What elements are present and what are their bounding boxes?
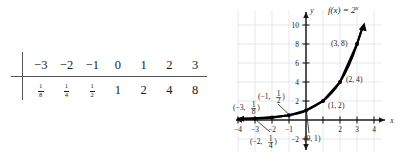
point-label-two: (2, 4) (346, 75, 363, 84)
fraction-denominator: 4 (269, 141, 273, 150)
point-label-close: ) (282, 92, 285, 101)
fraction-numerator: 1 (38, 83, 44, 90)
x-tick-label: −1 (285, 125, 293, 134)
x-tick-label: 3 (355, 125, 359, 134)
table-cell-x-1: −2 (54, 58, 80, 73)
y-tick-label: 8 (295, 40, 299, 49)
data-point (338, 80, 342, 84)
y-tick-label: 4 (295, 78, 299, 87)
data-point (287, 113, 291, 117)
y-tick-label: −2 (291, 135, 299, 144)
data-point (355, 42, 359, 46)
table-cell-y-3: 1 (105, 83, 131, 98)
y-axis-label: y (309, 6, 314, 15)
svg-text:(−3,: (−3, (233, 103, 246, 112)
fraction: 1 2 (90, 83, 96, 99)
point-label-zero: (0, 1) (304, 134, 321, 143)
function-label-base: f(x) = 2 (328, 5, 356, 15)
point-label-one: (1, 2) (328, 101, 345, 110)
fraction: 1 4 (64, 83, 70, 99)
point-label-open: (−3, (233, 103, 246, 112)
x-tick-label: 4 (372, 125, 376, 134)
x-tick-label: −3 (251, 125, 259, 134)
table-cell-y-6: 8 (182, 83, 208, 98)
point-label-neg3: (−3, 1 8 ) (233, 100, 260, 116)
fraction-numerator: 1 (90, 83, 96, 90)
fraction-denominator: 8 (38, 92, 44, 99)
point-label-close: ) (257, 103, 260, 112)
table-cell-x-4: 1 (131, 58, 157, 73)
point-label-open: (−2, (250, 137, 263, 146)
fraction: 1 8 (38, 83, 44, 99)
svg-text:f(x) = 2x: f(x) = 2x (328, 4, 359, 15)
data-point (304, 109, 308, 113)
point-label-open: (−1, (258, 92, 271, 101)
table-cell-x-3: 0 (105, 58, 131, 73)
y-tick-label: 10 (292, 21, 300, 30)
table-row: 1 8 1 4 1 2 1 2 4 8 (28, 80, 208, 100)
function-label: f(x) = 2x (328, 4, 359, 15)
point-label-neg1: (−1, 1 2 ) (258, 89, 285, 105)
fraction-denominator: 8 (252, 107, 256, 116)
x-tick-label: −4 (234, 125, 242, 134)
table-cell-x-6: 3 (182, 58, 208, 73)
table-cell-x-2: −1 (79, 58, 105, 73)
fraction-denominator: 2 (277, 96, 281, 105)
y-tick-label: 2 (295, 97, 299, 106)
function-label-exponent: x (355, 4, 359, 11)
x-tick-label: 2 (338, 125, 342, 134)
data-point (321, 99, 325, 103)
table-cell-y-0: 1 8 (28, 82, 54, 98)
x-tick-label: −2 (268, 125, 276, 134)
table-cell-x-0: −3 (28, 58, 54, 73)
table-cell-y-5: 4 (157, 83, 183, 98)
point-label-three: (3, 8) (331, 39, 348, 48)
y-tick-label: 6 (295, 59, 299, 68)
svg-text:(−1,: (−1, (258, 92, 271, 101)
table-row: −3 −2 −1 0 1 2 3 (28, 56, 208, 74)
table-cell-y-1: 1 4 (54, 82, 80, 98)
point-label-neg2: (−2, 1 4 ) (250, 134, 277, 150)
point-label-close: ) (274, 137, 277, 146)
x-axis-label: x (389, 116, 394, 125)
value-table: −3 −2 −1 0 1 2 3 1 8 1 4 1 2 (0, 0, 230, 168)
fraction-numerator: 1 (64, 83, 70, 90)
exponential-function-graph: x y −4 −3 −2 −1 2 3 4 10 8 6 4 2 −2 f(x)… (230, 0, 401, 168)
table-horizontal-rule (11, 76, 207, 77)
svg-text:(−2,: (−2, (250, 137, 263, 146)
table-cell-y-2: 1 2 (79, 82, 105, 98)
fraction-denominator: 4 (64, 92, 70, 99)
data-point (270, 116, 274, 120)
table-cell-y-4: 2 (131, 83, 157, 98)
fraction-denominator: 2 (90, 92, 96, 99)
table-cell-x-5: 2 (157, 58, 183, 73)
